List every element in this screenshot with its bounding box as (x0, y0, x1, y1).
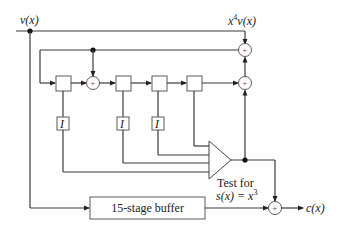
shift-register-4 (187, 76, 202, 91)
comparator-output-dot (242, 157, 247, 162)
comparator-triangle (209, 141, 231, 179)
adder-top-plus: + (243, 46, 248, 55)
adder-1-plus: + (91, 79, 96, 88)
output-label: c(x) (306, 201, 325, 215)
test-label-line2: s(x) = x3 (216, 188, 257, 203)
input-label: v(x) (20, 13, 39, 27)
shift-register-2 (116, 76, 131, 91)
adder-mid-plus: + (243, 79, 248, 88)
shifted-output-label: x4v(x) (227, 13, 256, 28)
test-label-line1: Test for (217, 176, 254, 190)
shift-register-3 (152, 76, 167, 91)
buffer-label: 15-stage buffer (111, 201, 184, 215)
adder-output-plus: + (273, 204, 278, 213)
shift-register-1 (56, 76, 71, 91)
decoder-block-diagram: v(x) x4v(x) + + + I I I (0, 0, 341, 232)
